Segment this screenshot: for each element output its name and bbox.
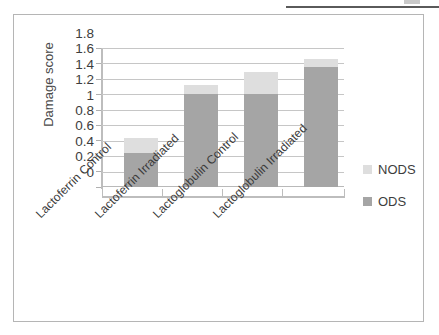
scan-smudge <box>404 0 420 4</box>
legend-swatch-icon <box>363 197 372 206</box>
y-tick-label: 0.4 <box>68 135 94 149</box>
legend-label: NODS <box>378 163 416 176</box>
y-tick-label: 1.4 <box>68 58 94 72</box>
legend-label: ODS <box>378 195 406 208</box>
bar-segment-nods[interactable] <box>184 85 218 94</box>
legend-item-ods[interactable]: ODS <box>363 195 433 208</box>
y-tick-label: 0.6 <box>68 120 94 134</box>
x-axis-tick <box>344 189 345 197</box>
y-tick-label: 0.8 <box>68 104 94 118</box>
legend-swatch-icon <box>363 165 372 174</box>
legend-item-nods[interactable]: NODS <box>363 163 433 176</box>
y-axis-tick <box>96 171 101 172</box>
x-axis-tick <box>162 189 163 197</box>
y-axis-tick <box>96 94 101 95</box>
y-tick-label: 1.6 <box>68 43 94 57</box>
y-tick-label: 1 <box>68 89 94 103</box>
x-axis-tick <box>282 189 283 197</box>
y-axis-tick <box>96 125 101 126</box>
y-tick-label: 1.2 <box>68 73 94 87</box>
y-axis-tick <box>96 79 101 80</box>
bar-segment-ods[interactable] <box>304 67 338 187</box>
y-axis-tick <box>96 110 101 111</box>
y-tick-label: 1.8 <box>68 27 94 41</box>
y-axis-tick <box>96 63 101 64</box>
y-axis-tick <box>96 140 101 141</box>
chart-legend: NODS ODS <box>363 163 433 227</box>
gridline <box>102 48 344 49</box>
y-axis-title: Damage score <box>41 25 56 145</box>
bar-segment-nods[interactable] <box>304 59 338 68</box>
x-axis-tick <box>102 189 103 197</box>
x-axis-tick <box>222 189 223 197</box>
y-axis-tick <box>96 48 101 49</box>
figure-frame: Damage score 1.8 1.6 1.4 1.2 1 0.8 0.6 0… <box>13 14 424 322</box>
y-axis-tick <box>96 187 101 188</box>
scan-rule-line <box>286 6 439 8</box>
bar-segment-nods[interactable] <box>244 72 278 94</box>
